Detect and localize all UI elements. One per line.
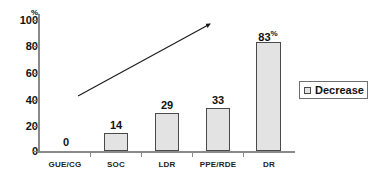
y-tick-mark bbox=[33, 100, 38, 101]
bar-value-gue-cg: 0 bbox=[51, 136, 81, 148]
bar-ldr[interactable] bbox=[155, 113, 179, 151]
category-label-ldr: LDR bbox=[142, 160, 192, 169]
chart-screenshot: % 100 80 60 40 20 0 bbox=[0, 0, 370, 179]
y-tick-mark bbox=[33, 46, 38, 47]
category-label-dr: DR bbox=[244, 160, 294, 169]
bar-value-ppe-rde: 33 bbox=[203, 94, 233, 106]
y-tick-mark bbox=[33, 20, 38, 21]
y-tick-mark bbox=[33, 126, 38, 127]
bar-dr[interactable] bbox=[256, 42, 281, 151]
category-label-soc: SOC bbox=[91, 160, 141, 169]
legend-swatch-decrease bbox=[304, 87, 311, 94]
y-tick-mark bbox=[33, 151, 38, 152]
category-label-gue-cg: GUE/CG bbox=[40, 160, 90, 169]
bar-value-ldr: 29 bbox=[152, 99, 182, 111]
bar-ppe-rde[interactable] bbox=[206, 108, 230, 151]
bar-value-dr: 83% bbox=[249, 28, 287, 43]
y-axis-line bbox=[38, 14, 40, 153]
x-axis-line bbox=[38, 151, 295, 153]
x-tick-mark bbox=[243, 153, 244, 157]
bar-value-dr-unit: % bbox=[271, 29, 278, 38]
bar-value-soc: 14 bbox=[101, 119, 131, 131]
x-tick-mark bbox=[90, 153, 91, 157]
bar-soc[interactable] bbox=[104, 133, 128, 151]
legend-label-decrease: Decrease bbox=[315, 85, 364, 96]
category-label-ppe-rde: PPE/RDE bbox=[193, 160, 243, 169]
x-tick-mark bbox=[192, 153, 193, 157]
plot-area: % 100 80 60 40 20 0 bbox=[0, 0, 310, 179]
x-tick-mark bbox=[141, 153, 142, 157]
bar-value-dr-number: 83 bbox=[258, 31, 270, 43]
legend[interactable]: Decrease bbox=[299, 81, 368, 99]
y-tick-mark bbox=[33, 73, 38, 74]
